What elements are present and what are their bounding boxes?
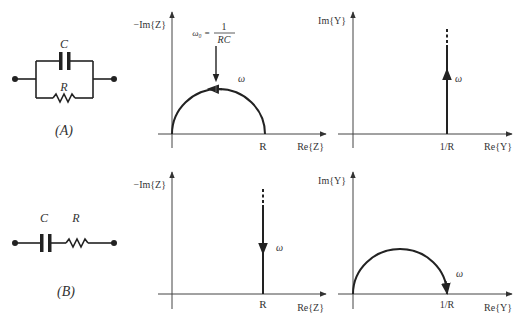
omega0-annotation: ω₀ = 1 RC (192, 21, 235, 78)
circuit-b-caption: (B) (57, 284, 75, 300)
y-axis-label: Im{Y} (318, 175, 346, 186)
capacitor-a-label: C (60, 37, 69, 51)
x-axis-label: Re{Y} (484, 141, 512, 152)
resistor-a-label: R (59, 80, 68, 94)
capacitor-b-icon (40, 234, 52, 252)
omega-label: ω (455, 73, 462, 84)
resistor-b-label: R (71, 211, 80, 225)
x-axis-label: Re{Z} (297, 141, 324, 152)
y-axis-label: −Im{Z} (134, 179, 166, 190)
omega0-numerator: 1 (222, 21, 227, 32)
tick-label-r: R (259, 298, 267, 310)
tick-label-r: R (259, 140, 267, 152)
resistor-b-icon (66, 239, 88, 247)
omega-label: ω (456, 268, 463, 279)
plot-a-admittance: Im{Y} Re{Y} 1/R ω (318, 12, 512, 152)
plot-a-impedance: −Im{Z} Re{Z} R ω ω₀ = 1 RC (134, 12, 326, 152)
x-axis-label: Re{Z} (297, 302, 324, 313)
impedance-semicircle (172, 89, 265, 134)
circuit-b: C R (B) (12, 211, 117, 300)
omega0-denominator: RC (217, 34, 231, 45)
tick-label-1-over-r: 1/R (440, 299, 455, 310)
omega0-lhs: ω₀ = (192, 28, 210, 38)
circuit-a: C R (A) (12, 37, 117, 139)
diagram-canvas: C R (A) C R (B) −Im{Z} Re{Z} R ω (0, 0, 525, 319)
circuit-a-caption: (A) (55, 123, 73, 139)
capacitor-b-label: C (40, 211, 49, 225)
x-axis-label: Re{Y} (484, 302, 512, 313)
admittance-semicircle (353, 249, 447, 294)
omega-direction-arrow-icon (446, 281, 447, 289)
capacitor-a-icon (59, 52, 71, 70)
tick-label-1-over-r: 1/R (440, 141, 455, 152)
y-axis-label: −Im{Z} (134, 19, 166, 30)
y-axis-label: Im{Y} (318, 15, 346, 26)
omega-label: ω (276, 242, 283, 253)
plot-b-impedance: −Im{Z} Re{Z} R ω (134, 172, 326, 313)
resistor-a-icon (53, 94, 75, 102)
omega-label: ω (238, 73, 245, 84)
plot-b-admittance: Im{Y} Re{Y} 1/R ω (318, 172, 512, 313)
